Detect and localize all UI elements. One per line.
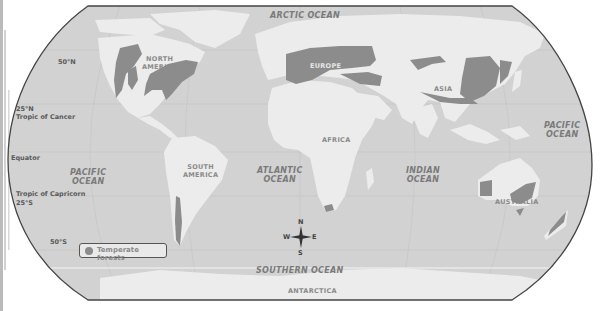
pacific-west-line1: PACIFIC [70, 168, 106, 177]
australia-label: AUSTRALIA [495, 198, 539, 206]
south-america-line2: AMERICA [183, 171, 218, 179]
atlantic-line2: OCEAN [257, 175, 303, 184]
pacific-west-line2: OCEAN [70, 177, 106, 186]
arctic-ocean-label: ARCTIC OCEAN [270, 11, 340, 20]
southern-ocean-label: SOUTHERN OCEAN [256, 266, 344, 275]
atlantic-ocean-label: ATLANTIC OCEAN [257, 166, 303, 184]
south-america-line1: SOUTH [183, 163, 218, 171]
compass-rose: N S E W [284, 218, 318, 258]
south-america-label: SOUTH AMERICA [183, 163, 218, 179]
pacific-ocean-west-label: PACIFIC OCEAN [70, 168, 106, 186]
north-america-line1: NORTH [142, 55, 177, 63]
compass-e: E [312, 233, 316, 241]
indian-ocean-label: INDIAN OCEAN [406, 166, 440, 184]
indian-line2: OCEAN [406, 175, 440, 184]
north-america-label: NORTH AMERICA [142, 55, 177, 71]
lat-50n-label: 50°N [58, 58, 76, 66]
world-map [0, 0, 600, 311]
antarctica-label: ANTARCTICA [288, 287, 337, 295]
lat-25n-label: 25°N [16, 105, 34, 113]
equator-label: Equator [11, 154, 40, 162]
compass-s: S [298, 249, 303, 257]
lat-50s-label: 50°S [50, 238, 67, 246]
compass-w: W [283, 233, 290, 241]
indian-line1: INDIAN [406, 166, 440, 175]
pacific-east-line2: OCEAN [544, 130, 580, 139]
atlantic-line1: ATLANTIC [257, 166, 303, 175]
compass-n: N [298, 218, 303, 226]
asia-label: ASIA [434, 85, 452, 93]
map-legend: Temperate forests [79, 243, 167, 258]
lat-25s-label: 25°S [16, 199, 33, 207]
europe-label: EUROPE [310, 62, 341, 70]
tropic-of-capricorn-label: Tropic of Capricorn [16, 190, 85, 198]
north-america-line2: AMERICA [142, 63, 177, 71]
pacific-east-line1: PACIFIC [544, 121, 580, 130]
africa-label: AFRICA [322, 136, 351, 144]
tropic-of-cancer-label: Tropic of Cancer [16, 113, 75, 121]
temperate-forest-swatch-icon [85, 247, 93, 255]
legend-label-temperate-forests: Temperate forests [97, 246, 166, 262]
pacific-ocean-east-label: PACIFIC OCEAN [544, 121, 580, 139]
